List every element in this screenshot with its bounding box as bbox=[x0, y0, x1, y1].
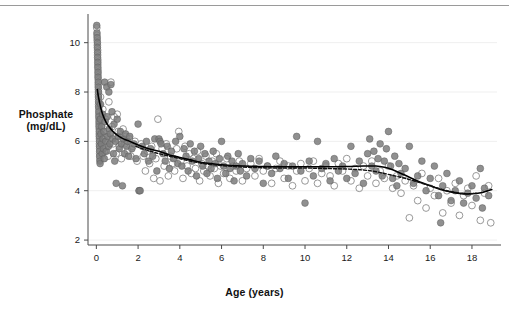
y-tick-label: 2 bbox=[54, 235, 80, 245]
y-axis-title: Phosphate (mg/dL) bbox=[8, 108, 84, 132]
x-tick-label: 12 bbox=[333, 253, 361, 263]
x-tick-label: 14 bbox=[374, 253, 402, 263]
open-circle-series bbox=[93, 24, 494, 226]
x-axis-title: Age (years) bbox=[0, 286, 509, 298]
x-tick-label: 8 bbox=[249, 253, 277, 263]
x-tick-label: 10 bbox=[291, 253, 319, 263]
x-tick-label: 16 bbox=[416, 253, 444, 263]
x-tick-label: 4 bbox=[166, 253, 194, 263]
x-tick-label: 2 bbox=[124, 253, 152, 263]
y-axis-title-line1: Phosphate bbox=[8, 108, 84, 120]
scatter-plot-svg bbox=[0, 0, 509, 318]
x-tick-label: 18 bbox=[458, 253, 486, 263]
y-tick-label: 6 bbox=[54, 136, 80, 146]
x-tick-label: 6 bbox=[208, 253, 236, 263]
y-tick-label: 4 bbox=[54, 186, 80, 196]
x-tick-label: 0 bbox=[82, 253, 110, 263]
y-axis-title-line2: (mg/dL) bbox=[8, 120, 84, 132]
y-tick-label: 8 bbox=[54, 87, 80, 97]
axis-lines-layer bbox=[84, 14, 501, 249]
figure-container: Phosphate (mg/dL) Age (years) 2468100246… bbox=[0, 0, 509, 318]
y-tick-label: 10 bbox=[54, 38, 80, 48]
filled-circle-series bbox=[93, 22, 492, 226]
